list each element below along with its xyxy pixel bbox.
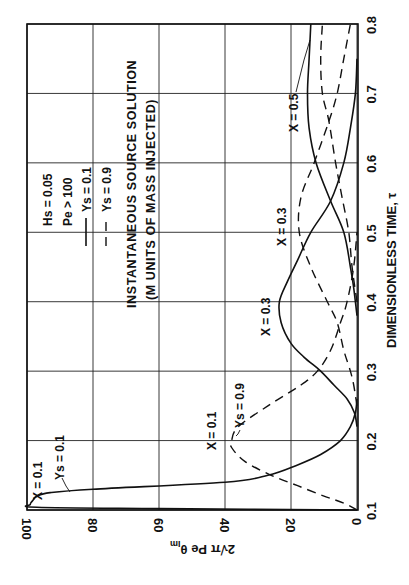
param-hs: Hs = 0.05 — [41, 173, 55, 226]
param-pe: Pe > 100 — [61, 177, 75, 226]
tick-label-tau: 0.8 — [364, 16, 379, 34]
chart-subtitle: (M UNITS OF MASS INJECTED) — [144, 99, 158, 300]
tick-label-value: 20 — [283, 518, 298, 532]
svg-text:2√π Pe θIm: 2√π Pe θIm — [170, 539, 235, 557]
tick-label-tau: 0.7 — [364, 85, 379, 103]
x-axis-label: DIMENSIONLESS TIME, τ — [384, 192, 399, 348]
tick-label-tau: 0.3 — [364, 363, 379, 381]
series-line — [25, 399, 357, 510]
tick-label-value: 100 — [19, 518, 34, 540]
legend-solid-label: Ys = 0.1 — [80, 167, 94, 212]
tick-label-value: 40 — [217, 518, 232, 532]
annotation-x05: X = 0.5 — [287, 93, 301, 132]
tick-label-tau: 0.2 — [364, 432, 379, 450]
tick-label-value: 80 — [85, 518, 100, 532]
annotation-x01-dashed: X = 0.1 — [205, 411, 219, 450]
series-line — [308, 24, 358, 316]
tick-labels: 0.10.20.30.40.50.60.70.8020406080100 — [19, 16, 379, 540]
tick-label-tau: 0.1 — [364, 502, 379, 520]
annotation-ys09: Ys = 0.9 — [233, 383, 247, 428]
tick-label-value: 60 — [151, 518, 166, 532]
tick-label-tau: 0.5 — [364, 224, 379, 242]
tick-label-tau: 0.4 — [364, 293, 379, 312]
curves — [25, 24, 357, 510]
annotation-x01-solid: X = 0.1 — [31, 461, 45, 500]
y-axis-label: 2√π Pe θIm — [170, 539, 235, 557]
gridlines — [27, 24, 358, 510]
chart-figure: 0.10.20.30.40.50.60.70.8020406080100 2√π… — [0, 0, 409, 585]
annotation-x03-dashed: X = 0.3 — [275, 207, 289, 246]
tick-label-value: 0 — [349, 518, 364, 525]
annotation-ys01: Ys = 0.1 — [53, 435, 67, 480]
annotation-ys09-pointer — [236, 430, 240, 436]
plot-frame — [27, 24, 358, 510]
chart-title: INSTANTANEOUS SOURCE SOLUTION — [125, 60, 139, 308]
annotation-x03-solid: X = 0.3 — [259, 297, 273, 336]
legend-dashed-label: Ys = 0.9 — [100, 167, 114, 212]
tick-label-tau: 0.6 — [364, 155, 379, 173]
